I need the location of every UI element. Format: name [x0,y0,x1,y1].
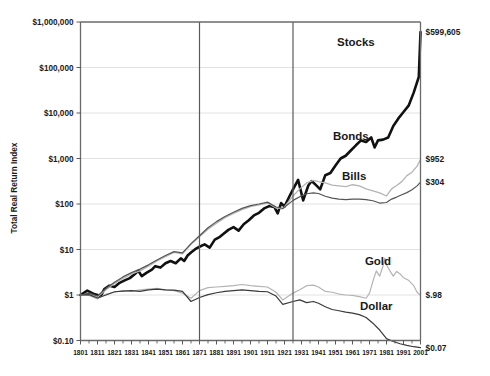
x-tick-label: 1911 [260,349,275,356]
y-tick-label: $1,000,000 [33,18,74,27]
x-tick-label: 1801 [73,349,88,356]
x-tick-label: 1821 [107,349,122,356]
series-label-bills: Bills [342,170,366,182]
series-label-gold: Gold [365,255,391,267]
x-tick-label: 1971 [362,349,377,356]
x-tick-label: 1861 [175,349,190,356]
y-tick-label: $0.10 [53,337,74,346]
x-tick-label: 1881 [209,349,224,356]
dollar-end-label: $0.07 [426,343,447,353]
series-label-bonds: Bonds [333,130,369,142]
x-tick-label: 1831 [124,349,139,356]
x-tick-label: 1941 [311,349,326,356]
y-axis-title: Total Real Return Index [10,142,19,233]
y-tick-label: $1,000 [48,155,73,164]
y-tick-label: $100,000 [39,64,74,73]
x-tick-label: 1891 [226,349,241,356]
x-tick-label: 1931 [294,349,309,356]
series-label-stocks: Stocks [337,36,375,48]
x-tick-label: 1851 [158,349,173,356]
x-tick-label: 1901 [243,349,258,356]
x-tick-label: 1841 [141,349,156,356]
x-tick-label: 1871 [192,349,207,356]
stocks-end-label: $599,605 [426,27,461,37]
x-tick-label: 1981 [379,349,394,356]
y-tick-label: $100 [55,200,74,209]
x-tick-label: 1961 [345,349,360,356]
y-tick-label: $10 [60,246,74,255]
x-tick-label: 1991 [396,349,411,356]
total-real-return-chart: $1,000,000$100,000$10,000$1,000$100$10$1… [0,0,490,376]
chart-container: $1,000,000$100,000$10,000$1,000$100$10$1… [0,0,490,376]
gold-end-label: $.98 [426,290,443,300]
x-tick-label: 1951 [328,349,343,356]
y-tick-label: $10,000 [44,109,74,118]
bonds-end-label: $952 [426,154,445,164]
x-tick-label: 1921 [277,349,292,356]
series-label-dollar: Dollar [360,300,393,312]
bills-end-label: $304 [426,177,445,187]
y-tick-label: $1 [64,291,74,300]
chart-background [0,0,490,376]
x-tick-label: 1811 [90,349,105,356]
